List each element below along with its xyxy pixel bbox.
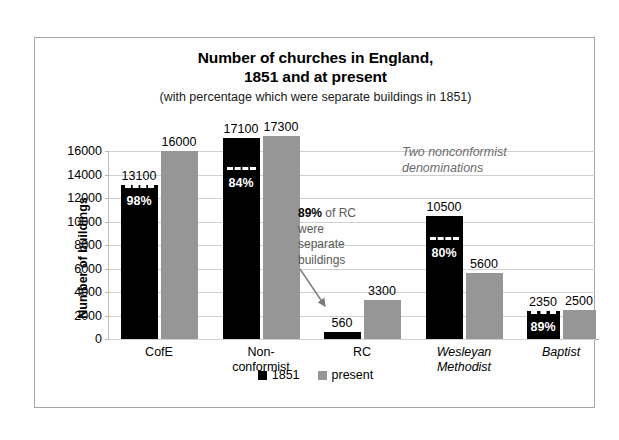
- chart-screenshot: Number of churches in England, 1851 and …: [0, 0, 619, 440]
- percent-divider-line: [227, 167, 256, 173]
- bar-present[interactable]: 3300: [364, 300, 401, 339]
- bar-value-label-present: 2500: [565, 294, 593, 308]
- annotation-line: 89% of RC: [298, 206, 382, 222]
- annotation-nonconformist-note: Two nonconformistdenominations: [402, 144, 572, 176]
- annotation-line: were: [298, 222, 382, 238]
- bar-present[interactable]: 5600: [466, 273, 503, 339]
- percent-divider-line: [430, 237, 459, 243]
- annotation-line: Two nonconformist: [402, 144, 572, 160]
- chart-subtitle: (with percentage which were separate bui…: [35, 88, 596, 107]
- y-axis-tick: [105, 151, 109, 152]
- bar-group: 1310098%16000CofE: [121, 151, 198, 339]
- y-tick-label: 10000: [67, 215, 102, 229]
- annotation-arrow-icon: [297, 266, 345, 316]
- x-tick-label-line: Baptist: [542, 345, 580, 360]
- bar-value-label-1851: 17100: [224, 122, 259, 136]
- y-tick-label: 8000: [74, 238, 102, 252]
- x-tick-label: RC: [353, 345, 371, 360]
- y-tick-label: 4000: [74, 285, 102, 299]
- bar-value-label-present: 5600: [470, 257, 498, 271]
- y-tick-label: 12000: [67, 191, 102, 205]
- chart-title-block: Number of churches in England, 1851 and …: [35, 48, 596, 107]
- x-tick-label-line: Non-: [232, 345, 290, 360]
- bar-1851[interactable]: 560: [324, 332, 361, 339]
- x-tick-label: CofE: [145, 345, 173, 360]
- y-axis-tick: [105, 175, 109, 176]
- chart-frame: Number of churches in England, 1851 and …: [34, 37, 595, 408]
- percent-label: 80%: [431, 246, 456, 260]
- annotation-line: separate: [298, 237, 382, 253]
- bar-1851[interactable]: 1710084%: [223, 138, 260, 339]
- bar-present[interactable]: 2500: [563, 310, 596, 339]
- y-tick-label: 0: [95, 332, 102, 346]
- bar-1851[interactable]: 235089%: [527, 311, 560, 339]
- legend-label-present: present: [332, 368, 374, 382]
- y-axis-tick: [105, 269, 109, 270]
- y-axis-tick: [105, 316, 109, 317]
- legend-item-present[interactable]: present: [318, 368, 374, 382]
- y-axis-tick: [105, 292, 109, 293]
- chart-legend: 1851 present: [35, 368, 596, 382]
- annotation-line: denominations: [402, 160, 572, 176]
- x-tick-label-line: RC: [353, 345, 371, 360]
- y-tick-label: 6000: [74, 262, 102, 276]
- bar-value-label-present: 17300: [264, 120, 299, 134]
- bar-present[interactable]: 16000: [161, 151, 198, 339]
- bar-group: 1710084%17300Non-conformist: [223, 151, 300, 339]
- percent-label: 89%: [530, 320, 555, 334]
- bar-present[interactable]: 17300: [263, 136, 300, 339]
- legend-swatch-1851-icon: [258, 371, 267, 380]
- bar-group: 1050080%5600WesleyanMethodist: [426, 151, 503, 339]
- x-tick-label: Baptist: [542, 345, 580, 360]
- bar-value-label-present: 3300: [368, 284, 396, 298]
- bar-value-label-1851: 560: [332, 316, 353, 330]
- gridline: [109, 339, 595, 340]
- bar-value-label-1851: 10500: [427, 200, 462, 214]
- legend-item-1851[interactable]: 1851: [258, 368, 300, 382]
- y-axis-tick: [105, 198, 109, 199]
- chart-title-line-2: 1851 and at present: [35, 67, 596, 86]
- legend-label-1851: 1851: [272, 368, 300, 382]
- legend-swatch-present-icon: [318, 371, 327, 380]
- y-axis-tick: [105, 245, 109, 246]
- percent-label: 98%: [126, 194, 151, 208]
- chart-title-line-1: Number of churches in England,: [35, 48, 596, 67]
- y-tick-label: 16000: [67, 144, 102, 158]
- bar-group: 235089%2500Baptist: [527, 151, 596, 339]
- y-axis-tick: [105, 339, 109, 340]
- bar-1851[interactable]: 1310098%: [121, 185, 158, 339]
- bar-value-label-1851: 13100: [122, 169, 157, 183]
- percent-divider-line: [531, 311, 556, 317]
- x-tick-label-line: Wesleyan: [437, 345, 492, 360]
- y-axis-tick: [105, 222, 109, 223]
- y-tick-label: 14000: [67, 168, 102, 182]
- bar-1851[interactable]: 1050080%: [426, 216, 463, 339]
- x-tick-label-line: CofE: [145, 345, 173, 360]
- bar-value-label-1851: 2350: [529, 295, 557, 309]
- annotation-rc-note: 89% of RCwereseparatebuildings: [298, 206, 382, 268]
- y-tick-label: 2000: [74, 309, 102, 323]
- bar-value-label-present: 16000: [162, 135, 197, 149]
- percent-divider-line: [125, 185, 154, 191]
- percent-label: 84%: [228, 176, 253, 190]
